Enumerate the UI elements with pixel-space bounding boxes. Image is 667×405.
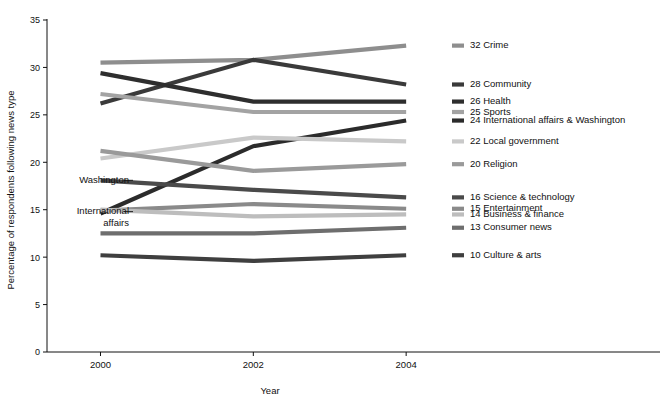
- y-tick-label: 25: [30, 110, 40, 120]
- line-chart: 05101520253035 200020022004 32 Crime28 C…: [0, 0, 667, 405]
- x-axis: 200020022004: [47, 352, 660, 370]
- series-end-labels: 32 Crime28 Community26 Health25 Sports24…: [470, 39, 625, 260]
- left-annotations: WashingtonInternationalaffairs: [77, 174, 130, 228]
- y-tick-label: 0: [35, 347, 40, 357]
- y-tick-label: 35: [30, 15, 40, 25]
- y-axis: 05101520253035: [30, 15, 47, 357]
- series-end-label: 16 Science & technology: [470, 191, 575, 202]
- y-tick-label: 10: [30, 253, 40, 263]
- series-line: [100, 228, 406, 234]
- x-tick-label: 2002: [243, 359, 264, 370]
- left-annotation-label: Washington: [79, 174, 129, 185]
- left-annotation-label-line2: affairs: [103, 217, 129, 228]
- x-axis-title: Year: [260, 385, 279, 396]
- series-end-label: 32 Crime: [470, 39, 509, 50]
- data-series-lines: [100, 46, 464, 261]
- y-tick-label: 5: [35, 300, 40, 310]
- y-axis-title: Percentage of respondents following news…: [5, 90, 16, 289]
- series-end-label: 26 Health: [470, 95, 511, 106]
- series-end-label: 20 Religion: [470, 158, 518, 169]
- y-tick-label: 30: [30, 63, 40, 73]
- series-end-label: 28 Community: [470, 78, 531, 89]
- y-tick-label: 20: [30, 158, 40, 168]
- series-line: [100, 210, 406, 217]
- series-end-label: 10 Culture & arts: [470, 249, 542, 260]
- y-tick-label: 15: [30, 205, 40, 215]
- series-end-label: 13 Consumer news: [470, 221, 552, 232]
- x-tick-label: 2000: [90, 359, 111, 370]
- series-line: [100, 255, 406, 261]
- x-tick-label: 2004: [396, 359, 417, 370]
- chart-svg: 05101520253035 200020022004 32 Crime28 C…: [0, 0, 667, 405]
- series-end-label: 14 Business & finance: [470, 208, 564, 219]
- left-annotation-label: International: [77, 205, 129, 216]
- series-end-label: 24 International affairs & Washington: [470, 114, 625, 125]
- series-end-label: 22 Local government: [470, 135, 559, 146]
